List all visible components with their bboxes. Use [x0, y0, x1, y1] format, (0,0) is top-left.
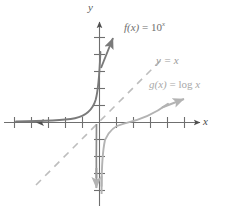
coordinate-plane [0, 0, 226, 211]
graph-figure: y x f(x) = 10x y = x g(x) = log x [0, 0, 226, 211]
logarithm-curve [102, 99, 184, 194]
exponential-curve [16, 38, 113, 188]
